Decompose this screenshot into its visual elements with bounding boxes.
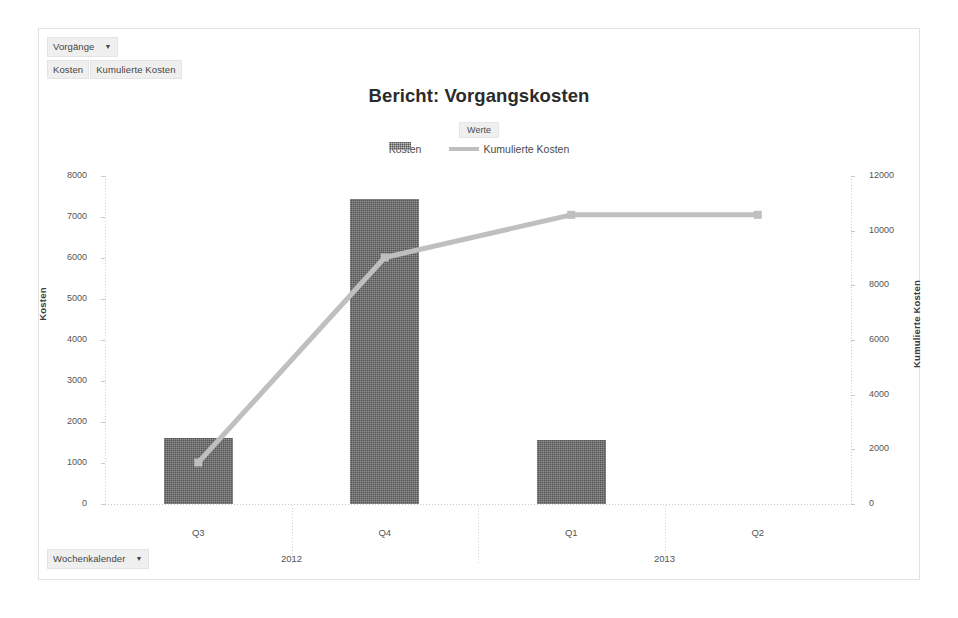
y-axis-right-title: Kumulierte Kosten xyxy=(911,264,922,384)
y-axis-left-tick-label: 3000 xyxy=(67,376,87,385)
report-frame: Vorgänge▼ Kosten Kumulierte Kosten Beric… xyxy=(38,28,920,580)
line-path xyxy=(198,215,758,463)
y-axis-left-tick-label: 7000 xyxy=(67,212,87,221)
y-axis-right-tick-label: 2000 xyxy=(869,444,889,453)
y-axis-right-tick-mark xyxy=(851,285,855,286)
y-axis-right-tick-label: 10000 xyxy=(869,226,894,235)
y-axis-right-tick-mark xyxy=(851,340,855,341)
x-axis-group-label: 2013 xyxy=(478,553,851,564)
line-marker[interactable] xyxy=(194,458,202,466)
cumulative-cost-line xyxy=(105,176,851,504)
y-axis-left-tick-label: 1000 xyxy=(67,458,87,467)
x-axis-tick-label: Q3 xyxy=(105,527,292,538)
y-axis-right-tick-label: 12000 xyxy=(869,171,894,180)
y-axis-left-tick-label: 4000 xyxy=(67,335,87,344)
y-axis-right-tick-label: 0 xyxy=(869,499,874,508)
y-axis-left-tick-label: 0 xyxy=(82,499,87,508)
x-axis-tick-label: Q1 xyxy=(478,527,665,538)
category-axis: Q3Q4Q1Q220122013 xyxy=(105,505,852,573)
y-axis-left-title: Kosten xyxy=(37,274,48,334)
x-axis-tick-label: Q4 xyxy=(292,527,479,538)
plot-wrapper: 010002000300040005000600070008000 020004… xyxy=(39,29,921,581)
y-axis-right-tick-mark xyxy=(851,395,855,396)
x-axis-group-label: 2012 xyxy=(105,553,478,564)
y-axis-right-tick-label: 6000 xyxy=(869,335,889,344)
category-field-label: Wochenkalender xyxy=(53,553,126,564)
y-axis-right-tick-mark xyxy=(851,231,855,232)
y-axis-right-tick-mark xyxy=(851,449,855,450)
line-marker[interactable] xyxy=(754,211,762,219)
y-axis-left-tick-label: 6000 xyxy=(67,253,87,262)
line-marker[interactable] xyxy=(567,211,575,219)
y-axis-left-ticks: 010002000300040005000600070008000 xyxy=(39,176,99,504)
y-axis-right-tick-label: 8000 xyxy=(869,280,889,289)
y-axis-left-tick-label: 5000 xyxy=(67,294,87,303)
y-axis-left-tick-label: 8000 xyxy=(67,171,87,180)
line-marker[interactable] xyxy=(381,253,389,261)
y-axis-left-tick-label: 2000 xyxy=(67,417,87,426)
x-axis-tick-label: Q2 xyxy=(665,527,852,538)
y-axis-right-tick-mark xyxy=(851,176,855,177)
category-field-wochenkalender[interactable]: Wochenkalender▼ xyxy=(47,549,149,569)
chevron-down-icon-2: ▼ xyxy=(136,552,143,565)
category-field-row: Wochenkalender▼ xyxy=(47,548,149,569)
y-axis-right-tick-label: 4000 xyxy=(869,390,889,399)
